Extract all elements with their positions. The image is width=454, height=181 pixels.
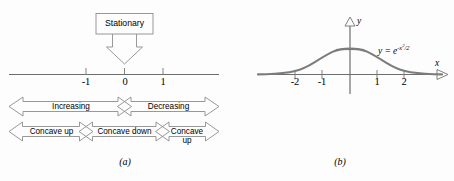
stationary-callout-label: Stationary <box>96 18 153 28</box>
number-line-tick-label-zero: 0 <box>116 76 134 87</box>
x-tick-label-minus1: -1 <box>313 76 331 87</box>
y-axis-label: y <box>357 16 361 26</box>
x-tick-label-plus2: 2 <box>395 76 413 87</box>
x-axis-label: x <box>435 58 439 68</box>
caption-panel-b: (b) <box>310 156 370 167</box>
caption-panel-a: (a) <box>95 156 155 167</box>
panel-a-graphics <box>9 14 219 142</box>
band-label-concave-down: Concave down <box>93 127 156 136</box>
band-label-increasing: Increasing <box>24 102 118 111</box>
equation-exp-denominator: /2 <box>405 44 410 51</box>
x-tick-label-minus2: -2 <box>286 76 304 87</box>
band-label-decreasing: Decreasing <box>132 102 205 111</box>
figure-canvas <box>0 0 454 181</box>
band-label-concave-up-right: Concave up <box>168 127 206 145</box>
x-tick-label-plus1: 1 <box>368 76 386 87</box>
number-line-tick-label-minus1: -1 <box>77 76 95 87</box>
y-axis-arrowhead-icon <box>345 17 355 26</box>
figure-page: Stationary -1 0 1 Increasing Decreasing … <box>0 0 454 181</box>
curve-equation-label: y =e-x2/2 <box>378 43 409 56</box>
equation-lhs: y = <box>378 46 391 56</box>
band-label-concave-up-left: Concave up <box>23 127 80 136</box>
equation-exponent: -x2/2 <box>397 44 409 51</box>
stationary-arrow-icon <box>107 34 143 64</box>
number-line-tick-label-plus1: 1 <box>154 76 172 87</box>
